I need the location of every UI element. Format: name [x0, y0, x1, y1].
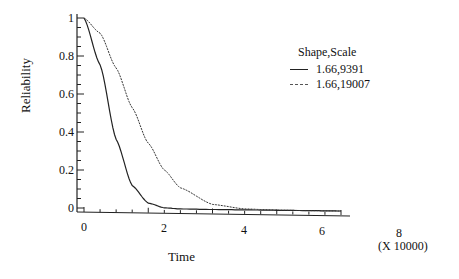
- x-axis-label: Time: [168, 250, 195, 263]
- y-tick-label: 0.6: [44, 87, 74, 102]
- dashed-line-swatch-icon: [290, 84, 308, 85]
- solid-line-swatch-icon: [290, 69, 308, 70]
- x-tick-label: 6: [312, 224, 332, 239]
- y-tick-label: 0: [44, 201, 74, 216]
- legend-label: 1.66,19007: [316, 77, 370, 92]
- x-tick-label: 2: [154, 221, 174, 236]
- legend-title: Shape,Scale: [298, 45, 370, 60]
- y-axis-label: Reliability: [18, 58, 34, 113]
- x-tick-label: 0: [74, 220, 94, 235]
- y-tick-marks: [77, 18, 84, 208]
- y-tick-label: 0.2: [44, 163, 74, 178]
- y-tick-label: 1: [44, 11, 74, 26]
- legend-label: 1.66,9391: [316, 62, 364, 77]
- legend: Shape,Scale 1.66,9391 1.66,19007: [290, 45, 370, 92]
- y-tick-label: 0.8: [44, 49, 74, 64]
- legend-item: 1.66,9391: [290, 62, 370, 77]
- y-tick-label: 0.4: [44, 125, 74, 140]
- legend-item: 1.66,19007: [290, 77, 370, 92]
- x-axis-multiplier: (X 10000): [378, 240, 428, 252]
- x-tick-label: 4: [234, 223, 254, 238]
